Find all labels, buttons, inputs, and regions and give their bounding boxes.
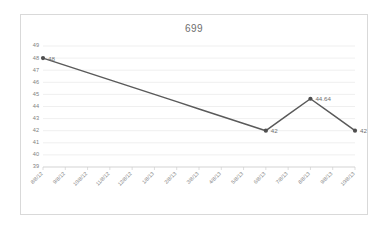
y-axis-tick-label: 39 [33,163,39,169]
y-axis-tick-label: 47 [33,67,39,73]
x-axis-tick-label: 3/8/13 [185,170,200,185]
x-axis-tick-label: 9/8/13 [319,170,334,185]
data-point-marker [308,97,312,101]
y-axis-tick-label: 45 [33,91,39,97]
data-point-marker [264,129,268,133]
x-axis-tick-label: 1/8/13 [141,170,156,185]
data-point-marker [353,129,357,133]
y-axis-tick-label: 41 [33,139,39,145]
gridlines-group [43,46,355,167]
x-axis-tick-label: 10/8/12 [72,170,89,187]
data-point-label: 48 [48,55,55,62]
x-axis-tick-label: 5/8/13 [230,170,245,185]
data-point-label: 42 [271,127,278,134]
x-axis-tick-label: 6/8/13 [252,170,267,185]
data-point-marker [41,56,45,60]
x-axis-tick-label: 10/8/13 [339,170,356,187]
data-point-label: 44.64 [315,95,331,102]
x-axis-tick-label: 11/8/12 [94,170,110,186]
y-axis-tick-label: 49 [33,42,39,48]
chart-container: 699 4948474645444342414039 8/8/129/8/121… [20,14,368,215]
x-axis-tick-label: 8/8/12 [29,170,44,185]
x-axis-tick-label: 9/8/12 [52,170,67,185]
y-axis-tick-label: 46 [33,79,39,85]
x-axis-tick-label: 7/8/13 [274,170,289,185]
axis-ticks-group [43,167,355,170]
y-axis-tick-label: 43 [33,115,39,121]
y-axis-tick-label: 44 [33,103,39,109]
line-chart-plot: 4948474645444342414039 8/8/129/8/1210/8/… [21,15,367,214]
data-point-label: 42 [360,127,367,134]
x-axis-tick-label: 8/8/13 [297,170,312,185]
y-axis-tick-label: 42 [33,127,39,133]
x-axis-labels-group: 8/8/129/8/1210/8/1211/8/1212/8/121/8/132… [29,170,356,187]
y-axis-tick-label: 48 [33,55,39,61]
y-axis-tick-label: 40 [33,151,39,157]
y-axis-labels-group: 4948474645444342414039 [33,42,39,169]
x-axis-tick-label: 12/8/12 [116,170,133,187]
x-axis-tick-label: 4/8/13 [208,170,223,185]
x-axis-tick-label: 2/8/13 [163,170,178,185]
